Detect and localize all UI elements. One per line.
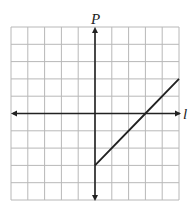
y-axis-label: P xyxy=(90,11,100,27)
x-axis-label: l xyxy=(183,106,187,122)
x-axis-left-arrow-icon xyxy=(11,111,17,117)
series-line xyxy=(95,79,179,165)
axes xyxy=(11,27,181,201)
chart-canvas: l P xyxy=(0,0,192,211)
x-axis-right-arrow-icon xyxy=(175,111,181,117)
data-series xyxy=(95,79,179,165)
y-axis-up-arrow-icon xyxy=(92,27,98,33)
